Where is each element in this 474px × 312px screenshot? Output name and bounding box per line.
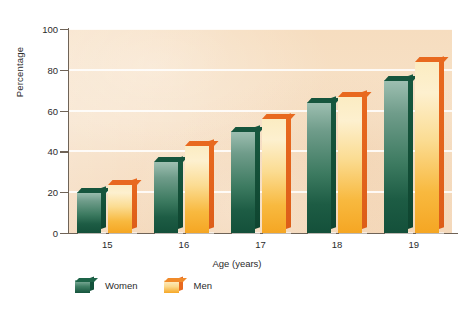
- bar-women-19[interactable]: [384, 80, 408, 233]
- bar-men-18[interactable]: [338, 96, 362, 233]
- bar-top-face: [154, 157, 188, 162]
- x-axis-tick-label: 18: [307, 239, 367, 250]
- bar-group: [154, 29, 214, 233]
- bar-men-15[interactable]: [108, 184, 132, 233]
- y-axis-tick-label: 40: [24, 146, 58, 157]
- bar-top-face: [231, 127, 265, 132]
- legend-item-women[interactable]: Women: [75, 278, 138, 293]
- legend-label-women: Women: [105, 280, 138, 291]
- bar-front-face: [384, 80, 408, 233]
- bar-front-face: [185, 145, 209, 233]
- legend-swatch-men-icon: [164, 278, 183, 293]
- bar-men-16[interactable]: [185, 145, 209, 233]
- bar-top-face: [338, 92, 372, 97]
- bar-front-face: [307, 102, 331, 233]
- bar-top-face: [415, 57, 449, 62]
- bar-front-face: [262, 119, 286, 233]
- bar-side-face: [178, 156, 183, 229]
- bar-top-face: [307, 98, 341, 103]
- bar-women-15[interactable]: [77, 192, 101, 233]
- y-axis-tick-mark: [60, 151, 69, 152]
- bar-chart-figure: Percentage 020406080100 1516171819 Age (…: [0, 0, 474, 312]
- legend-swatch-women-icon: [75, 278, 94, 293]
- x-axis-tick-label: 19: [384, 239, 444, 250]
- y-axis-tick-mark: [60, 111, 69, 112]
- bar-group: [384, 29, 444, 233]
- bar-side-face: [132, 178, 137, 229]
- bar-side-face: [408, 74, 413, 229]
- bar-front-face: [338, 96, 362, 233]
- bar-front-face: [77, 192, 101, 233]
- bar-group: [77, 29, 137, 233]
- bar-top-face: [185, 141, 219, 146]
- x-axis-tick-label: 17: [231, 239, 291, 250]
- bar-top-face: [262, 114, 296, 119]
- x-axis-tick-label: 15: [77, 239, 137, 250]
- x-axis-title: Age (years): [0, 258, 474, 269]
- bar-side-face: [331, 97, 336, 229]
- y-axis-tick-label: 100: [24, 24, 58, 35]
- y-axis-tick-mark: [60, 70, 69, 71]
- bar-side-face: [286, 113, 291, 229]
- bar-group: [231, 29, 291, 233]
- y-axis-tick-mark: [60, 29, 69, 30]
- y-axis-tick-label: 60: [24, 105, 58, 116]
- bar-front-face: [231, 131, 255, 233]
- bar-top-face: [108, 180, 142, 185]
- bar-front-face: [108, 184, 132, 233]
- legend-label-men: Men: [194, 280, 212, 291]
- y-axis-tick-label: 0: [24, 228, 58, 239]
- bar-front-face: [154, 162, 178, 233]
- bars-layer: [69, 29, 452, 233]
- chart-legend: Women Men: [75, 278, 212, 293]
- bar-top-face: [384, 76, 418, 81]
- bar-women-17[interactable]: [231, 131, 255, 233]
- legend-item-men[interactable]: Men: [164, 278, 212, 293]
- bar-top-face: [77, 188, 111, 193]
- bar-men-19[interactable]: [415, 62, 439, 233]
- bar-side-face: [255, 125, 260, 229]
- y-axis-tick-label: 20: [24, 187, 58, 198]
- x-axis-tick-labels: 1516171819: [69, 239, 452, 255]
- bar-men-17[interactable]: [262, 119, 286, 233]
- bar-side-face: [362, 91, 367, 229]
- x-axis-tick-label: 16: [154, 239, 214, 250]
- bar-women-18[interactable]: [307, 102, 331, 233]
- bar-side-face: [209, 139, 214, 229]
- bar-group: [307, 29, 367, 233]
- y-axis-tick-mark: [60, 192, 69, 193]
- y-axis-tick-mark: [60, 233, 69, 234]
- bar-front-face: [415, 62, 439, 233]
- y-axis-tick-label: 80: [24, 64, 58, 75]
- bar-women-16[interactable]: [154, 162, 178, 233]
- bar-side-face: [439, 56, 444, 229]
